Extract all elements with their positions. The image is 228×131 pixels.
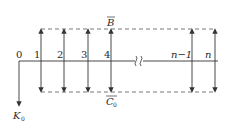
bottom-label-sub: 0: [113, 101, 117, 108]
node-label-3: 3: [81, 49, 87, 60]
origin-label: 0: [16, 49, 22, 60]
node-label-1: 1: [34, 49, 40, 60]
node-label-n-minus-1: n−1: [171, 49, 192, 60]
output-label-sub: 0: [21, 115, 25, 122]
node-arrows: [41, 31, 215, 90]
top-label-b-bar: B: [106, 17, 114, 28]
node-label-n: n: [205, 49, 211, 60]
node-label-2: 2: [57, 49, 63, 60]
network-diagram: 0 1 2 3 4 n−1 n B C 0 K 0: [0, 0, 228, 131]
node-label-4: 4: [104, 49, 110, 60]
output-label-k: K: [12, 110, 21, 121]
break-icon: [135, 56, 142, 66]
